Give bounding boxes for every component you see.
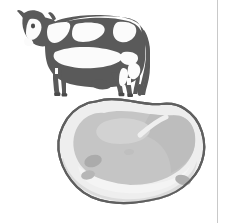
cow-hoof-hind-far — [127, 94, 133, 97]
cow-and-meat-illustration — [0, 0, 227, 223]
cow-hoof-hind-near — [119, 93, 125, 97]
cow-leg-patch-hind — [127, 78, 131, 85]
cow-leg-patch-front — [55, 68, 58, 74]
cow-eye-icon — [31, 24, 35, 29]
illustration-page: Cow and cut of meat illustration Holstei… — [0, 0, 227, 223]
right-margin-rule — [217, 0, 218, 223]
meat-figure — [58, 99, 204, 203]
cow-hoof-front-near — [54, 93, 60, 97]
cow-hoof-front-far — [62, 93, 68, 96]
